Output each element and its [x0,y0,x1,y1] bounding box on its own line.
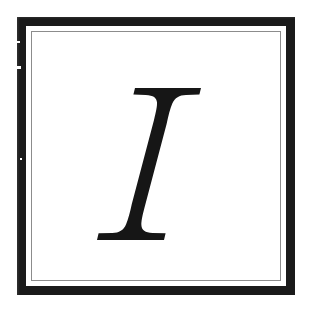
drop-cap-letter-i [31,31,281,281]
scan-artifact-nick [20,158,22,160]
scan-artifact-nick [17,41,20,43]
page-canvas [0,0,316,312]
letter-i-glyph [31,31,281,281]
scan-artifact-nick [17,66,21,69]
